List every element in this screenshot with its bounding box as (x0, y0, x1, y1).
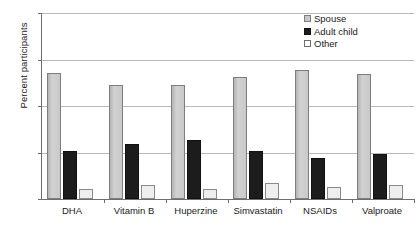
bar-adult-child (187, 140, 201, 199)
legend-swatch-other-icon (304, 40, 311, 47)
bars-layer (42, 13, 414, 199)
x-axis-label: Valproate (351, 205, 413, 216)
legend: Spouse Adult child Other (304, 14, 358, 49)
bar-adult-child (125, 144, 139, 199)
bar-group (352, 13, 414, 199)
bar-group (228, 13, 290, 199)
x-tick-mark (352, 199, 353, 203)
x-tick-mark (290, 199, 291, 203)
y-tick-mark (38, 199, 42, 200)
bar-spouse (47, 73, 61, 199)
legend-label-other: Other (314, 39, 338, 49)
bar-spouse (357, 74, 371, 199)
legend-item-spouse: Spouse (304, 14, 358, 24)
bar-other (141, 185, 155, 199)
legend-item-adult-child: Adult child (304, 27, 358, 37)
bar-other (203, 189, 217, 199)
bar-adult-child (311, 158, 325, 199)
x-tick-mark (166, 199, 167, 203)
x-axis-label: DHA (41, 205, 103, 216)
legend-label-adult-child: Adult child (314, 27, 358, 37)
x-axis-label: Huperzine (165, 205, 227, 216)
bar-spouse (295, 70, 309, 199)
x-axis-label: Vitamin B (103, 205, 165, 216)
bar-spouse (171, 85, 185, 199)
x-tick-mark (104, 199, 105, 203)
legend-swatch-spouse-icon (304, 15, 311, 22)
bar-adult-child (249, 151, 263, 199)
y-axis-title: Percent participants (18, 0, 29, 141)
bar-other (79, 189, 93, 199)
bar-spouse (233, 77, 247, 199)
bar-other (327, 187, 341, 199)
x-axis-label: NSAIDs (289, 205, 351, 216)
legend-item-other: Other (304, 39, 358, 49)
bar-adult-child (373, 154, 387, 199)
bar-adult-child (63, 151, 77, 199)
bar-group (42, 13, 104, 199)
bar-spouse (109, 85, 123, 199)
legend-label-spouse: Spouse (314, 14, 346, 24)
bar-chart: Percent participants 0255075100 DHAVitam… (0, 0, 417, 238)
plot-area (41, 13, 414, 200)
bar-other (389, 185, 403, 199)
legend-swatch-adult-child-icon (304, 28, 311, 35)
x-tick-mark (228, 199, 229, 203)
x-axis-label: Simvastatin (227, 205, 289, 216)
bar-other (265, 183, 279, 199)
bar-group (166, 13, 228, 199)
bar-group (104, 13, 166, 199)
x-tick-mark (414, 199, 415, 203)
